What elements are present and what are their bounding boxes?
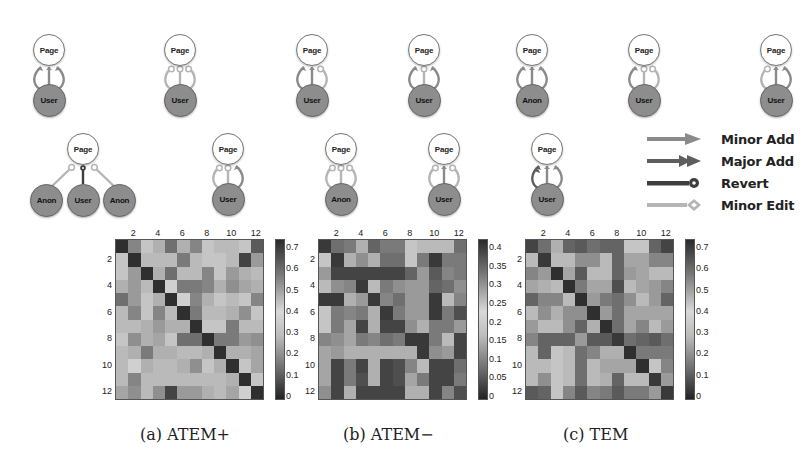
heatmap-cell [442,373,454,386]
heatmap-cell [417,253,429,266]
heatmap-cell [116,320,128,333]
heatmap-cell [600,253,612,266]
heatmap-cell [538,346,550,359]
heatmap-cell [563,373,575,386]
heatmap-cell [417,359,429,372]
heatmap-cell [331,240,343,253]
page-node: Page [531,133,563,165]
y-tick-label: 12 [98,386,112,396]
heatmap-cell [563,333,575,346]
motif-row1-5: PageAnon [502,34,562,129]
heatmap-cell [538,373,550,386]
x-tick-label: 2 [541,228,546,238]
heatmap-cell [442,346,454,359]
user-node: User [760,84,793,117]
heatmap-cell [551,306,563,319]
heatmap-cell [551,359,563,372]
heatmap-cell [393,346,405,359]
heatmap-cell [636,320,648,333]
heatmap-cell [649,293,661,306]
heatmap-cell [153,293,165,306]
heatmap-cell [356,280,368,293]
heatmap-cell [344,333,356,346]
anon-node: Anon [30,184,63,217]
heatmap-cell [165,373,177,386]
heatmap-cell [356,386,368,399]
motif-row1-4: PageUser [394,34,454,129]
heatmap-cell [226,320,238,333]
heatmap-cell [600,240,612,253]
heatmap-cell [380,240,392,253]
heatmap-cell [538,240,550,253]
user-node: User [296,84,329,117]
colorbar-tick-label: 0.05 [489,372,507,382]
heatmap-cell [393,359,405,372]
heatmap-cell [442,306,454,319]
x-tick-label: 8 [407,228,412,238]
x-tick-label: 6 [180,228,185,238]
heatmap-cell [442,333,454,346]
heatmap-cell [128,267,140,280]
caption-b: (b) ATEM− [343,425,434,444]
y-tick-label: 2 [301,254,315,264]
x-tick-label: 10 [226,228,236,238]
heatmap-cell [393,280,405,293]
heatmap-cell [563,320,575,333]
heatmap-cell [319,320,331,333]
heatmap-cell [563,293,575,306]
heatmap-cell [429,280,441,293]
page-node: Page [760,34,792,66]
legend-item-revert: Revert [645,172,810,194]
heatmap-cell [442,253,454,266]
heatmap-cell [575,306,587,319]
heatmap-cell [226,386,238,399]
legend-item-minor-edit: Minor Edit [645,194,810,216]
colorbar-tick-label: 0.25 [489,298,507,308]
heatmap-cell [575,333,587,346]
heatmap-cell [454,346,466,359]
heatmap-cell [128,346,140,359]
heatmap-cell [454,253,466,266]
heatmap-cell [600,346,612,359]
page-node: Page [296,34,328,66]
heatmap-cell [587,359,599,372]
heatmap-cell [405,240,417,253]
heatmap-cell [600,280,612,293]
heatmap-cell [405,253,417,266]
heatmap-cell [442,240,454,253]
heatmap-cell [153,253,165,266]
heatmap-cell [454,320,466,333]
heatmap-cell [538,359,550,372]
heatmap-cell [368,320,380,333]
heatmap-cell [116,280,128,293]
heatmap-cell [319,346,331,359]
heatmap-cell [587,373,599,386]
heatmap-cell [177,267,189,280]
heatmap-cell [380,293,392,306]
heatmap-grid [318,239,467,400]
heatmap-cell [600,320,612,333]
motif-row1-1: PageUser [19,34,79,129]
heatmap-cell [251,253,263,266]
heatmap-cell [600,267,612,280]
heatmap-cell [319,280,331,293]
user-node: User [628,84,661,117]
x-tick-label: 10 [636,228,646,238]
heatmap-cell [226,240,238,253]
heatmap-cell [239,346,251,359]
heatmap-cell [624,293,636,306]
heatmap-cell [563,280,575,293]
heatmap-cell [587,386,599,399]
heatmap-cell [128,359,140,372]
y-tick-label: 6 [98,307,112,317]
heatmap-cell [526,267,538,280]
heatmap-cell [177,320,189,333]
x-tick-label: 4 [358,228,363,238]
colorbar-tick-label: 0.3 [286,327,299,337]
heatmap-cell [368,240,380,253]
colorbar-tick-label: 0 [286,391,291,401]
heatmap-cell [600,333,612,346]
heatmap-cell [429,333,441,346]
heatmap-cell [380,280,392,293]
colorbar-tick-label: 0.7 [696,242,709,252]
